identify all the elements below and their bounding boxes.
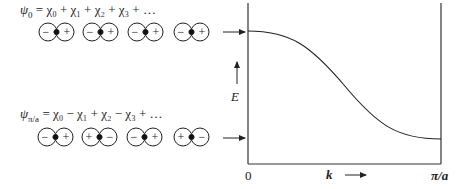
lobe-sign: − <box>199 130 206 144</box>
lobe-sign: + <box>63 130 70 144</box>
x-tick-zero: 0 <box>245 168 252 184</box>
y-axis-label: E <box>231 89 239 105</box>
lobe-sign: − <box>131 130 138 144</box>
lobe-sign: + <box>199 25 206 39</box>
lobe-sign: + <box>64 25 71 39</box>
lobe-sign: − <box>178 25 185 39</box>
plot-frame <box>248 3 441 164</box>
lobe-sign: − <box>107 130 114 144</box>
lobe-sign: − <box>43 25 50 39</box>
lobe-sign: + <box>152 130 159 144</box>
lobe-sign: + <box>108 25 115 39</box>
lobe-sign: − <box>87 25 94 39</box>
x-tick-pi-over-a: π/a <box>431 168 448 184</box>
lobe-sign: + <box>86 130 93 144</box>
lobe-sign: + <box>153 25 160 39</box>
lobe-sign: + <box>178 130 185 144</box>
band-curve <box>248 31 441 139</box>
lobe-sign: − <box>132 25 139 39</box>
lobe-sign: − <box>42 130 49 144</box>
x-axis-label: k <box>326 167 333 183</box>
